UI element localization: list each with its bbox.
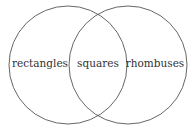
rhombuses-label: rhombuses [126,57,185,69]
venn-diagram: rectangles squares rhombuses [0,0,188,126]
squares-label: squares [77,57,119,69]
rectangles-label: rectangles [12,57,68,69]
